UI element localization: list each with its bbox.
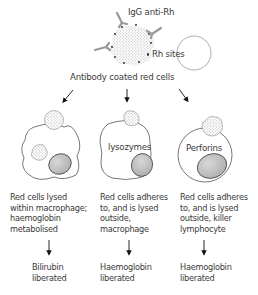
lysozymes-label: lysozymes bbox=[108, 142, 151, 153]
arrow-left bbox=[64, 90, 73, 101]
description-macrophage-lysis: Red cells lysed within macrophage; haemo… bbox=[10, 192, 87, 234]
igg-anti-rh-label: IgG anti-Rh bbox=[128, 7, 174, 18]
description-killer-lymphocyte: Red cells adheres to, and is lysed outsi… bbox=[180, 192, 248, 234]
outcome-haemoglobin-1: Haemoglobin liberated bbox=[100, 262, 152, 284]
outcome-arrows bbox=[49, 240, 204, 253]
rh-site-pointer-dot bbox=[147, 53, 149, 55]
outcome-bilirubin: Bilirubin liberated bbox=[32, 262, 66, 284]
antibody-coated-red-cells-label: Antibody coated red cells bbox=[70, 72, 174, 83]
rh-sites-label: Rh sites bbox=[152, 49, 185, 60]
branch-arrows bbox=[64, 89, 187, 101]
macrophage-engulfing bbox=[22, 111, 80, 180]
adhering-red-cell bbox=[202, 117, 223, 137]
description-macrophage-surface: Red cells adheres to, and is lysed outsi… bbox=[100, 192, 168, 234]
antibody-icon-left bbox=[95, 43, 110, 50]
arrow-right bbox=[179, 89, 187, 100]
perforins-label: Perforins bbox=[186, 143, 222, 154]
adhering-red-cell bbox=[124, 111, 139, 126]
adhering-red-cell bbox=[45, 111, 64, 130]
outcome-haemoglobin-2: Haemoglobin liberated bbox=[180, 262, 232, 284]
antibody-icon-top bbox=[117, 13, 127, 27]
